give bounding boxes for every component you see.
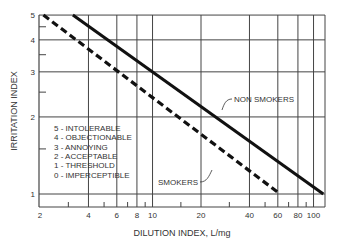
legend: 5 - INTOLERABLE4 - OBJECTIONABLE3 - ANNO… — [54, 124, 132, 180]
legend-entry: 1 - THRESHOLD — [54, 161, 115, 170]
x-tick-label: 10 — [148, 211, 157, 220]
irritation-chart: 24681020406080100 12345 NON SMOKERSSMOKE… — [0, 0, 339, 244]
x-tick-label: 6 — [115, 211, 120, 220]
y-axis-label: IRRITATION INDEX — [9, 71, 19, 151]
x-tick-label: 2 — [38, 211, 43, 220]
x-tick-label: 8 — [135, 211, 140, 220]
x-tick-label: 4 — [86, 211, 91, 220]
smokers-label: SMOKERS — [158, 178, 198, 187]
y-tick-label: 5 — [31, 11, 36, 20]
y-axis-ticks: 12345 — [31, 11, 46, 199]
legend-entry: 3 - ANNOYING — [54, 143, 108, 152]
x-tick-label: 20 — [197, 211, 206, 220]
annotations: NON SMOKERSSMOKERS — [158, 95, 294, 187]
legend-entry: 5 - INTOLERABLE — [54, 124, 121, 133]
y-tick-label: 1 — [31, 190, 36, 199]
x-tick-label: 100 — [307, 211, 321, 220]
x-tick-label: 40 — [245, 211, 254, 220]
y-tick-label: 4 — [31, 36, 36, 45]
y-tick-label: 3 — [31, 68, 36, 77]
legend-entry: 0 - IMPERCEPTIBLE — [54, 171, 130, 180]
legend-entry: 4 - OBJECTIONABLE — [54, 133, 132, 142]
non-smokers-leader — [222, 99, 232, 110]
smokers-leader — [200, 170, 212, 182]
x-axis-label: DILUTION INDEX, L/mg — [133, 228, 230, 238]
x-tick-label: 60 — [273, 211, 282, 220]
legend-entry: 2 - ACCEPTABLE — [54, 152, 117, 161]
x-tick-label: 80 — [293, 211, 302, 220]
y-tick-label: 2 — [31, 113, 36, 122]
non-smokers-label: NON SMOKERS — [234, 95, 294, 104]
